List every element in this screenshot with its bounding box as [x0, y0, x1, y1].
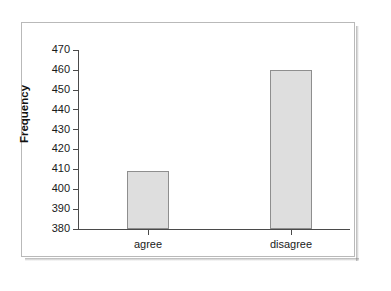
- y-tick-label-450: 450: [44, 84, 70, 95]
- x-axis-line: [78, 229, 350, 230]
- y-tick-label-440-wrap: 440: [41, 104, 70, 115]
- bar-agree[interactable]: [127, 171, 169, 229]
- x-tick-label-agree: agree: [108, 238, 188, 250]
- y-tick-label-410: 410: [44, 163, 70, 174]
- plot-area: Frequency 470 460 450 440 430 420 410 40…: [0, 0, 391, 291]
- y-tick-label-400: 400: [44, 183, 70, 194]
- y-tick-label-420: 420: [44, 143, 70, 154]
- y-tick-label-390: 390: [44, 203, 70, 214]
- x-tick-mark-agree: [148, 230, 149, 235]
- y-axis-line: [78, 50, 79, 230]
- y-tick-label-390-wrap: 390: [41, 203, 70, 214]
- y-tick-label-430-wrap: 430: [41, 124, 70, 135]
- bar-disagree[interactable]: [270, 70, 312, 229]
- y-tick-label-450-wrap: 450: [41, 84, 70, 95]
- x-tick-label-disagree: disagree: [251, 238, 331, 250]
- y-axis-title: Frequency: [18, 74, 30, 154]
- y-tick-label-410-wrap: 410: [41, 163, 70, 174]
- y-tick-label-460-wrap: 460: [41, 64, 70, 75]
- y-tick-label-380: 380: [44, 223, 70, 234]
- chart-screenshot: Frequency 470 460 450 440 430 420 410 40…: [0, 0, 391, 291]
- y-tick-label-470: 470: [44, 44, 70, 55]
- y-tick-label-460: 460: [44, 64, 70, 75]
- y-tick-label-440: 440: [44, 104, 70, 115]
- x-tick-mark-disagree: [291, 230, 292, 235]
- y-tick-label-470-wrap: 470: [41, 44, 70, 55]
- y-tick-label-430: 430: [44, 124, 70, 135]
- y-tick-label-400-wrap: 400: [41, 183, 70, 194]
- y-tick-label-380-wrap: 380: [41, 223, 70, 234]
- y-tick-label-420-wrap: 420: [41, 143, 70, 154]
